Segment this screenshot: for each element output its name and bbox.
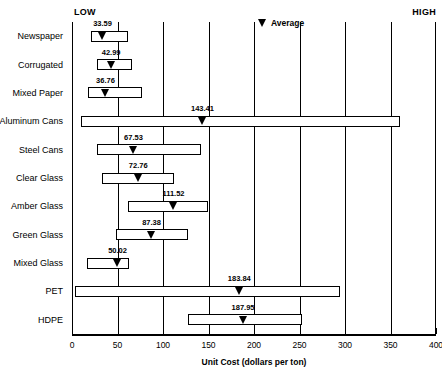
category-label: PET: [45, 286, 63, 296]
range-bar: [81, 116, 400, 127]
average-value-label: 183.84: [228, 274, 251, 283]
category-label: Mixed Paper: [12, 88, 63, 98]
average-marker: [198, 117, 206, 125]
chart-row: Mixed Paper36.76: [72, 79, 436, 107]
average-marker: [113, 259, 121, 267]
category-label: Mixed Glass: [13, 258, 63, 268]
axis-tick-label: 0: [70, 340, 75, 350]
axis-tick-label: 350: [383, 340, 397, 350]
category-label: Corrugated: [18, 60, 63, 70]
average-marker: [235, 287, 243, 295]
chart-row: Corrugated42.99: [72, 51, 436, 79]
chart-row: Steel Cans67.53: [72, 136, 436, 164]
axis-tick: [345, 328, 346, 334]
average-value-label: 50.02: [108, 246, 127, 255]
category-label: Amber Glass: [11, 201, 63, 211]
average-value-label: 33.59: [93, 19, 112, 28]
axis-tick: [72, 328, 73, 334]
axis-tick: [391, 328, 392, 334]
axis-tick: [254, 328, 255, 334]
range-bar: [75, 286, 341, 297]
axis-tick-label: 200: [247, 340, 261, 350]
range-bar: [88, 87, 142, 98]
axis-tick: [118, 328, 119, 334]
average-marker: [129, 146, 137, 154]
low-end-label: LOW: [74, 7, 96, 17]
category-label: Clear Glass: [16, 173, 63, 183]
average-value-label: 187.95: [232, 303, 255, 312]
axis-tick-label: 250: [292, 340, 306, 350]
average-marker: [101, 89, 109, 97]
plot-area: Newspaper33.59Corrugated42.99Mixed Paper…: [72, 22, 436, 334]
average-value-label: 87.38: [142, 218, 161, 227]
chart-row: Mixed Glass50.02: [72, 249, 436, 277]
axis-tick-label: 400: [429, 340, 442, 350]
high-end-label: HIGH: [412, 7, 436, 17]
average-value-label: 111.52: [162, 189, 184, 198]
average-value-label: 36.76: [96, 76, 115, 85]
axis-tick: [300, 328, 301, 334]
average-value-label: 67.53: [124, 133, 143, 142]
category-label: Newspaper: [17, 31, 63, 41]
axis-tick: [436, 328, 437, 334]
average-marker: [169, 202, 177, 210]
axis-tick: [209, 328, 210, 334]
average-value-label: 42.99: [102, 48, 121, 57]
range-bar: [91, 31, 128, 42]
average-marker: [107, 61, 115, 69]
chart-row: Clear Glass72.76: [72, 164, 436, 192]
chart-row: Green Glass87.38: [72, 221, 436, 249]
axis-tick-label: 150: [201, 340, 215, 350]
category-label: Aluminum Cans: [0, 116, 63, 126]
axis-tick: [163, 328, 164, 334]
range-bar: [87, 258, 129, 269]
chart-row: Aluminum Cans143.41: [72, 107, 436, 135]
average-marker: [98, 32, 106, 40]
average-marker: [147, 231, 155, 239]
average-value-label: 72.76: [129, 161, 148, 170]
category-label: HDPE: [38, 315, 63, 325]
axis-tick-label: 300: [338, 340, 352, 350]
axis-tick-label: 50: [113, 340, 122, 350]
chart-row: PET183.84: [72, 277, 436, 305]
average-marker: [134, 174, 142, 182]
axis-tick-label: 100: [156, 340, 170, 350]
x-axis-title: Unit Cost (dollars per ton): [72, 357, 436, 367]
x-axis: 050100150200250300350400: [72, 334, 436, 336]
category-label: Green Glass: [12, 230, 63, 240]
category-label: Steel Cans: [19, 145, 63, 155]
average-marker: [239, 316, 247, 324]
chart-row: Newspaper33.59: [72, 22, 436, 50]
chart-page: LOW HIGH Average Newspaper33.59Corrugate…: [0, 0, 442, 379]
chart-row: Amber Glass111.52: [72, 192, 436, 220]
range-bar: [97, 144, 202, 155]
average-value-label: 143.41: [191, 104, 214, 113]
